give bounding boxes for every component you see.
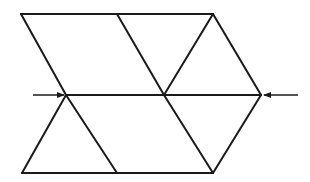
upper-inner-right-diagonal-line xyxy=(164,14,213,95)
lower-middle-diagonal-line xyxy=(164,95,213,173)
lower-right-diagonal-line xyxy=(213,95,261,173)
shape-edges xyxy=(21,14,261,173)
triangle-tessellation-diagram xyxy=(0,0,310,182)
lower-left-inner-diagonal-line xyxy=(66,95,117,173)
upper-middle-diagonal-line xyxy=(117,14,164,95)
upper-left-diagonal-line xyxy=(21,14,66,95)
upper-outer-right-diagonal-line xyxy=(213,14,261,95)
lower-left-diagonal-line xyxy=(22,95,66,173)
